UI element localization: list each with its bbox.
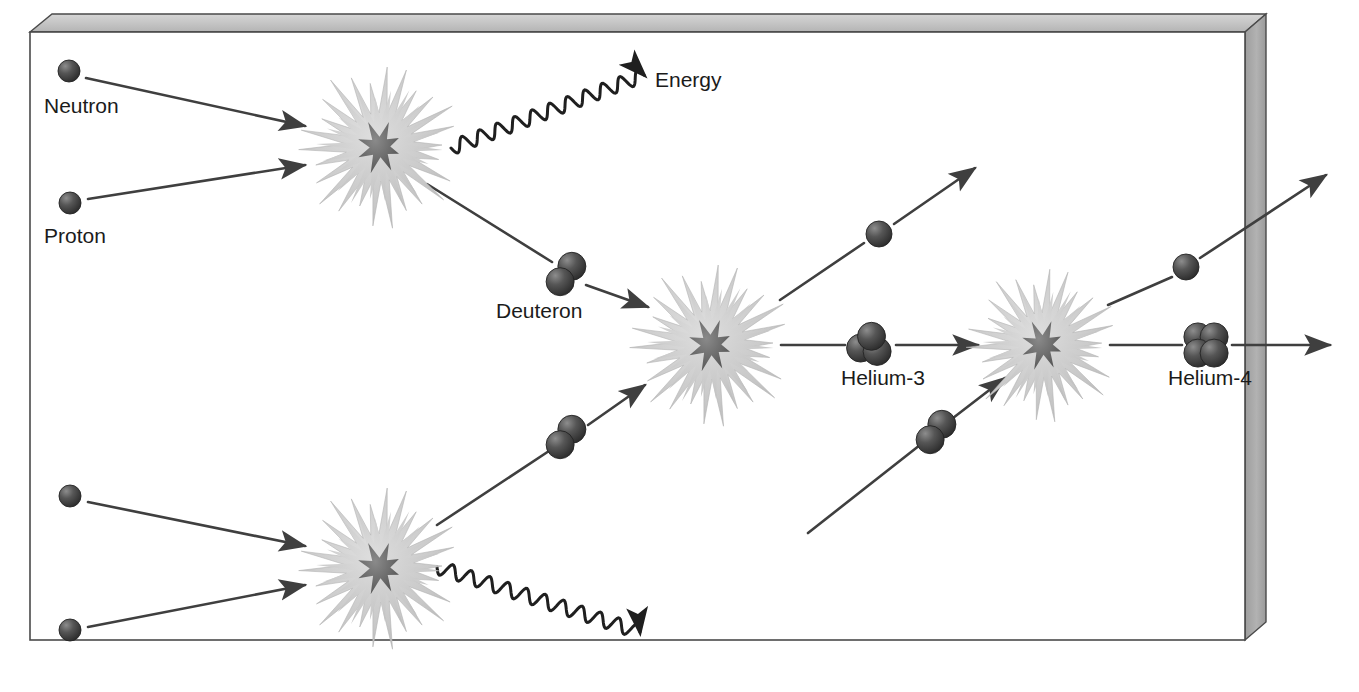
- label-proton: Proton: [44, 224, 106, 247]
- neutron-top: [58, 60, 80, 82]
- label-helium3: Helium-3: [841, 366, 925, 389]
- proton-top: [59, 192, 81, 214]
- helium4-nucleus: [1184, 323, 1228, 367]
- proton-ejected-mid: [866, 221, 892, 247]
- proton-ejected-right: [1173, 254, 1199, 280]
- deuteron-right-sphere-b: [916, 426, 944, 454]
- label-energy: Energy: [655, 68, 722, 91]
- neutron-bottom: [59, 485, 81, 507]
- fusion-diagram-svg: NeutronProtonEnergyDeuteronHelium-3Heliu…: [0, 0, 1359, 692]
- proton-bottom-sphere: [59, 619, 81, 641]
- fusion-diagram-stage: NeutronProtonEnergyDeuteronHelium-3Heliu…: [0, 0, 1359, 692]
- proton-ejected-right-sphere: [1173, 254, 1199, 280]
- neutron-top-sphere: [58, 60, 80, 82]
- deuteron-lower-sphere-b: [546, 431, 574, 459]
- box-right-side: [1245, 14, 1266, 640]
- helium4-nucleus-sphere-d: [1200, 339, 1228, 367]
- box-top-bevel: [30, 14, 1266, 32]
- helium3-nucleus-sphere-c: [858, 322, 886, 350]
- deuteron-upper-sphere-b: [546, 268, 574, 296]
- proton-bottom: [59, 619, 81, 641]
- label-deuteron: Deuteron: [496, 299, 582, 322]
- neutron-bottom-sphere: [59, 485, 81, 507]
- label-helium4: Helium-4: [1168, 366, 1252, 389]
- proton-top-sphere: [59, 192, 81, 214]
- label-neutron: Neutron: [44, 94, 119, 117]
- proton-ejected-mid-sphere: [866, 221, 892, 247]
